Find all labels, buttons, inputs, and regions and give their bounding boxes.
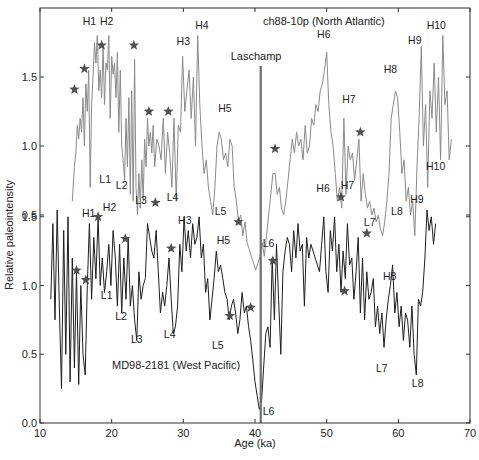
event-label: H9 [408, 34, 422, 46]
x-tick-label: 30 [177, 427, 189, 439]
event-label: L5 [215, 205, 227, 217]
event-label: H1 [83, 15, 97, 27]
y-tick-label-upper: 1.5 [22, 71, 37, 83]
event-label: H9 [410, 193, 424, 205]
chart-canvas: H1H2H3H4H5H6H7H8H9H10L1L2L3L4L5L7L8H1H2H… [0, 0, 479, 460]
series-layer [51, 36, 452, 410]
x-tick-label: 70 [464, 427, 476, 439]
event-label: L8 [412, 377, 424, 389]
star-marker-icon [225, 310, 235, 320]
event-label: H10 [426, 160, 445, 172]
event-label: H6 [316, 182, 330, 194]
series-line-west-pacific [51, 210, 436, 409]
event-label: L3 [131, 333, 143, 345]
event-label: L6 [263, 405, 275, 417]
star-marker-icon [120, 233, 130, 243]
event-label: H10 [427, 19, 446, 31]
event-label: H6 [317, 28, 331, 40]
y-tick-label-upper: 1.0 [22, 140, 37, 152]
star-marker-icon [81, 275, 92, 285]
event-label: L4 [167, 191, 179, 203]
event-label: L7 [364, 216, 376, 228]
star-marker-icon [144, 106, 155, 116]
event-label: H3 [178, 214, 192, 226]
series-label-west-pacific: MD98-2181 (West Pacific) [112, 359, 240, 371]
event-label: H2 [100, 15, 114, 27]
laschamp-label: Laschamp [231, 50, 282, 62]
event-label: L2 [116, 179, 128, 191]
star-marker-icon [166, 243, 177, 253]
plot-frame [40, 8, 470, 423]
x-tick-label: 50 [321, 427, 333, 439]
star-marker-icon [79, 63, 90, 73]
paleointensity-chart: H1H2H3H4H5H6H7H8H9H10L1L2L3L4L5L7L8H1H2H… [0, 0, 479, 460]
event-label: H8 [384, 63, 398, 75]
y-axis-title: Relative paleointensity [3, 179, 15, 290]
star-marker-icon [362, 228, 372, 238]
star-marker-icon [355, 127, 366, 137]
event-label: L1 [101, 289, 113, 301]
event-label: H2 [103, 201, 117, 213]
x-tick-label: 20 [106, 427, 118, 439]
event-label: L2 [115, 310, 127, 322]
event-label: L8 [391, 205, 403, 217]
event-label: L6 [263, 237, 275, 249]
x-axis-title: Age (ka) [234, 437, 276, 449]
star-marker-icon [129, 40, 139, 50]
star-marker-icon [163, 106, 173, 116]
event-label: H7 [341, 179, 355, 191]
event-label: L4 [164, 328, 176, 340]
y-tick-label-lower: 0.0 [22, 417, 37, 429]
star-marker-icon [150, 197, 160, 207]
series-label-north-atlantic: ch88-10p (North Atlantic) [263, 15, 385, 27]
y-tick-label-lower: 1.0 [22, 280, 37, 292]
event-label: H5 [217, 234, 231, 246]
event-label: H3 [177, 35, 191, 47]
y-tick-label-upper: 0.5 [22, 209, 37, 221]
y-tick-label-lower: 0.5 [22, 348, 37, 360]
star-marker-icon [270, 143, 281, 153]
event-label: H1 [82, 207, 96, 219]
event-label: L5 [212, 339, 224, 351]
event-label: H7 [342, 93, 356, 105]
event-label: H5 [218, 102, 232, 114]
event-label: L3 [135, 194, 147, 206]
event-label: H8 [383, 270, 397, 282]
star-marker-icon [69, 84, 79, 94]
event-label: L7 [376, 362, 388, 374]
x-tick-label: 60 [392, 427, 404, 439]
event-label: L1 [99, 173, 111, 185]
event-label: H4 [195, 19, 209, 31]
